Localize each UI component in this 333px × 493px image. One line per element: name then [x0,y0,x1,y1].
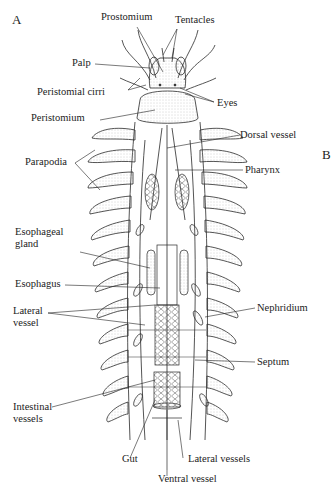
label-ventral-vessel: Ventral vessel [158,473,217,485]
worm-illustration [0,0,333,493]
label-parapodia: Parapodia [25,156,67,168]
label-peristomium: Peristomium [31,112,85,124]
panel-label-a: A [12,12,21,28]
label-eyes: Eyes [217,97,237,109]
label-esophageal-gland-line2: gland [15,238,38,250]
label-tentacles: Tentacles [175,14,215,26]
panel-label-b: B [322,147,331,163]
label-dorsal-vessel: Dorsal vessel [240,129,296,141]
label-gut: Gut [122,453,138,465]
label-prostomium: Prostomium [101,11,152,23]
label-lateral-vessels: Lateral vessels [188,453,250,465]
label-intestinal-vessels-line2: vessels [13,413,43,425]
label-nephridium: Nephridium [257,302,308,314]
label-lateral-vessel-line2: vessel [13,317,39,329]
label-intestinal-vessels-line1: Intestinal [13,401,52,413]
label-lateral-vessel-line1: Lateral [13,305,43,317]
worm-anatomy-diagram: A B Prostomium Tentacles Palp Peristomia… [0,0,333,493]
label-esophagus: Esophagus [15,278,61,290]
label-septum: Septum [257,356,289,368]
label-pharynx: Pharynx [245,164,280,176]
label-esophageal-gland-line1: Esophageal [15,226,63,238]
label-peristomial-cirri: Peristomial cirri [37,86,105,98]
label-palp: Palp [72,57,91,69]
